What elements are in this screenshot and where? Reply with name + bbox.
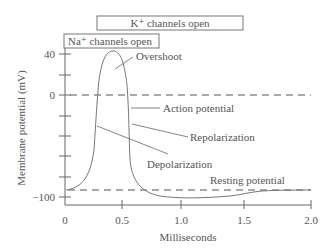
y-axis: 40 0 −100 Membrane potential (mV) (15, 48, 71, 205)
resting-potential-label: Resting potential (210, 174, 285, 186)
x-tick-1-0: 1.0 (174, 214, 188, 226)
repolarization-leader (132, 124, 188, 137)
action-potential-chart: K⁺ channels open Na⁺ channels open 40 0 … (0, 0, 333, 250)
k-channels-label: K⁺ channels open (130, 17, 210, 29)
repolarization-label: Repolarization (190, 131, 255, 143)
na-channels-label: Na⁺ channels open (68, 35, 152, 47)
x-tick-0: 0 (62, 214, 68, 226)
k-channels-bar: K⁺ channels open (97, 16, 243, 30)
na-channels-bar: Na⁺ channels open (64, 34, 159, 48)
x-axis-label: Milliseconds (160, 231, 217, 243)
action-potential-label: Action potential (163, 102, 234, 114)
x-tick-2-0: 2.0 (304, 214, 318, 226)
y-axis-label: Membrane potential (mV) (15, 70, 28, 186)
x-axis: 0 0.5 1.0 1.5 2.0 Milliseconds (62, 200, 318, 243)
depolarization-label: Depolarization (147, 158, 213, 170)
y-tick-0: 0 (50, 89, 56, 101)
x-tick-0-5: 0.5 (115, 214, 129, 226)
y-tick-neg100: −100 (32, 191, 55, 203)
y-tick-40: 40 (44, 48, 56, 60)
overshoot-label: Overshoot (136, 50, 182, 62)
x-tick-1-5: 1.5 (237, 214, 251, 226)
